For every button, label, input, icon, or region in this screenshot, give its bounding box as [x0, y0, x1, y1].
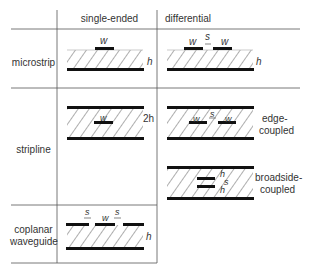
- symbol-h: h: [147, 56, 153, 68]
- symbol-s: s: [210, 108, 215, 120]
- header-single-ended: single-ended: [62, 13, 157, 25]
- symbol-s: s: [85, 206, 90, 218]
- symbol-s: s: [115, 206, 120, 218]
- symbol-w: w: [221, 36, 228, 48]
- caption-coupled: coupled: [259, 125, 294, 137]
- symbol-h: h: [220, 184, 225, 196]
- symbol-h: h: [256, 56, 262, 68]
- row-label-stripline: stripline: [10, 144, 57, 156]
- symbol-w: w: [225, 113, 232, 125]
- row-label-coplanar: coplanar: [10, 224, 57, 236]
- symbol-s: s: [205, 31, 210, 43]
- microstrip-single: [67, 47, 144, 71]
- row-label-waveguide: waveguide: [10, 236, 57, 248]
- row-label-microstrip: microstrip: [10, 57, 57, 69]
- symbol-w: w: [100, 35, 107, 47]
- header-differential: differential: [165, 13, 255, 25]
- symbol-2h: 2h: [143, 113, 154, 125]
- stripline-broadside-coupled: [167, 166, 254, 200]
- symbol-w: w: [193, 113, 200, 125]
- symbol-h: h: [146, 231, 152, 243]
- symbol-w: w: [189, 36, 196, 48]
- caption-coupled: coupled: [260, 184, 295, 196]
- caption-edge: edge-: [262, 113, 288, 125]
- symbol-w: w: [100, 112, 107, 124]
- caption-broadside: broadside-: [255, 172, 302, 184]
- microstrip-differential: [167, 44, 254, 71]
- symbol-w: w: [102, 212, 109, 224]
